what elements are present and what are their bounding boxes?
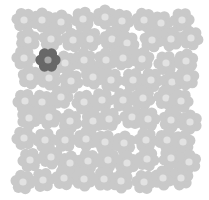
odd-flower-icon[interactable] xyxy=(35,47,61,73)
flower-icon[interactable] xyxy=(178,25,204,51)
puzzle-board xyxy=(0,0,209,200)
flower-icon[interactable] xyxy=(168,165,194,191)
